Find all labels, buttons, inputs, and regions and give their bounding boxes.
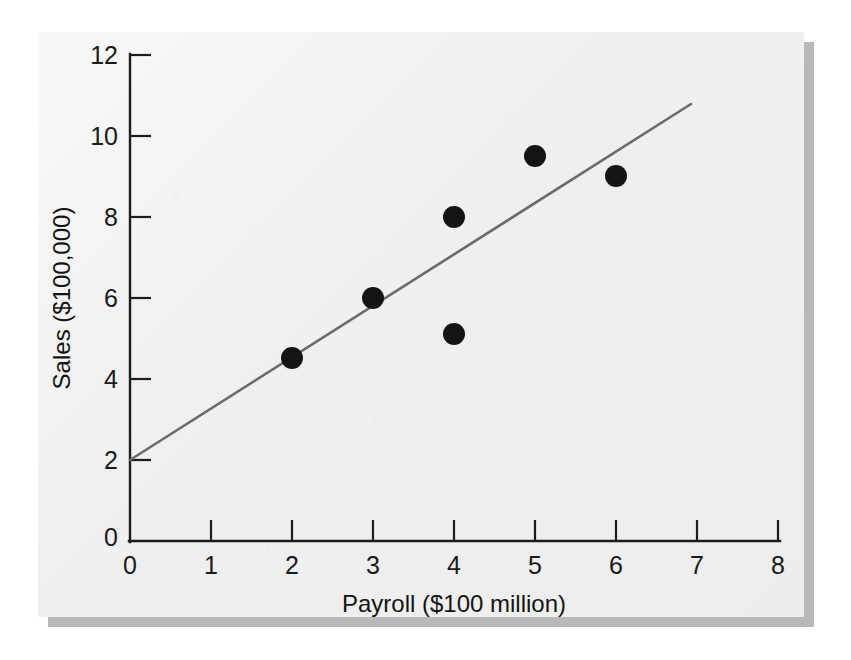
y-tick-label-0: 0 <box>104 523 118 551</box>
x-tick-label-4: 4 <box>447 551 461 579</box>
chart-panel: 12 10 8 6 4 2 0 0 1 2 3 4 <box>38 32 804 617</box>
y-tick-label-10: 10 <box>90 122 118 150</box>
x-tick-label-0: 0 <box>123 551 137 579</box>
data-point <box>443 206 465 228</box>
x-tick-marks <box>211 520 778 541</box>
x-tick-label-3: 3 <box>366 551 380 579</box>
y-tick-label-4: 4 <box>104 365 118 393</box>
data-point <box>281 347 303 369</box>
x-axis-title: Payroll ($100 million) <box>342 590 566 617</box>
y-tick-label-2: 2 <box>104 446 118 474</box>
y-tick-label-8: 8 <box>104 203 118 231</box>
y-axis-title: Sales ($100,000) <box>48 207 75 390</box>
data-point <box>362 287 384 309</box>
scatter-plot: 12 10 8 6 4 2 0 0 1 2 3 4 <box>38 32 804 617</box>
data-point <box>443 323 465 345</box>
y-tick-label-6: 6 <box>104 284 118 312</box>
data-point <box>605 165 627 187</box>
x-tick-label-8: 8 <box>771 551 785 579</box>
x-tick-label-5: 5 <box>528 551 542 579</box>
y-tick-label-12: 12 <box>90 41 118 69</box>
x-tick-label-1: 1 <box>204 551 218 579</box>
figure-container: 12 10 8 6 4 2 0 0 1 2 3 4 <box>0 0 851 660</box>
y-tick-marks <box>130 55 151 460</box>
x-tick-label-7: 7 <box>690 551 704 579</box>
x-tick-label-2: 2 <box>285 551 299 579</box>
x-tick-label-6: 6 <box>609 551 623 579</box>
regression-line <box>130 104 691 460</box>
data-point <box>524 145 546 167</box>
